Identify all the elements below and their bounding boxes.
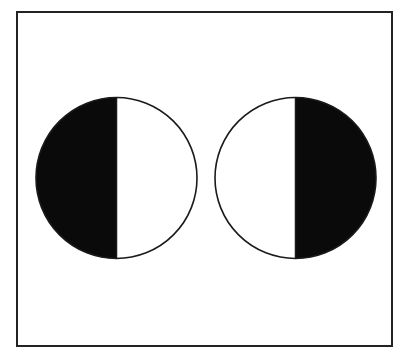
- left-circle: [36, 98, 197, 259]
- left-circle-filled-half: [36, 98, 117, 259]
- right-circle: [215, 98, 376, 259]
- diagram-canvas: [0, 0, 404, 361]
- right-circle-filled-half: [296, 98, 377, 259]
